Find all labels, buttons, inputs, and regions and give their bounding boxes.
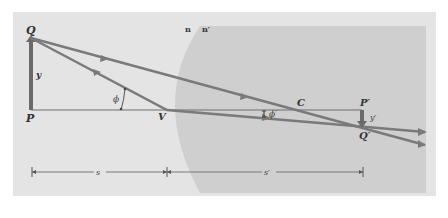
label-phi-prime: ϕ′ xyxy=(269,109,277,119)
label-y-prime: y′ xyxy=(369,113,377,122)
label-n-prime: n′ xyxy=(202,24,210,34)
label-Q: Q xyxy=(26,24,36,37)
refraction-diagram: Q P y V C P′ Q′ y′ ϕ ϕ′ n n′ s s′ xyxy=(0,0,448,218)
angle-phi-tick xyxy=(124,88,127,91)
label-V: V xyxy=(158,111,167,122)
label-C: C xyxy=(297,97,305,108)
label-P: P xyxy=(25,112,35,125)
label-phi: ϕ xyxy=(113,94,119,104)
label-s: s xyxy=(96,168,100,177)
label-Q-prime: Q′ xyxy=(359,130,371,141)
angle-phi-tick xyxy=(120,108,123,111)
label-y: y xyxy=(35,70,42,80)
label-P-prime: P′ xyxy=(359,97,371,108)
label-s-prime: s′ xyxy=(264,168,270,177)
label-n: n xyxy=(185,24,191,34)
